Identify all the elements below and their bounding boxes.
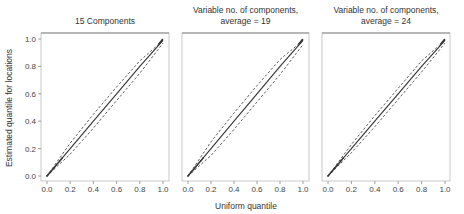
x-axis-title: Uniform quantile bbox=[215, 201, 277, 211]
x-tick-label: 0.0 bbox=[182, 185, 194, 194]
x-tick-label: 0.4 bbox=[369, 185, 381, 194]
y-tick-label: 0.8 bbox=[25, 62, 37, 71]
y-tick-label: 0.2 bbox=[25, 145, 37, 154]
data-point bbox=[58, 161, 60, 163]
data-point bbox=[55, 164, 57, 166]
data-point bbox=[342, 157, 344, 159]
x-tick-label: 0.8 bbox=[416, 185, 428, 194]
x-tick-label: 0.8 bbox=[274, 185, 286, 194]
data-point bbox=[191, 171, 193, 173]
data-point bbox=[336, 164, 338, 166]
data-point bbox=[196, 164, 198, 166]
data-point bbox=[332, 170, 334, 172]
x-tick-label: 0.2 bbox=[205, 185, 217, 194]
data-point bbox=[59, 160, 61, 162]
data-point bbox=[329, 172, 331, 174]
data-point bbox=[334, 167, 336, 169]
data-point bbox=[444, 39, 446, 41]
x-tick-label: 0.6 bbox=[111, 185, 123, 194]
data-point bbox=[202, 157, 204, 159]
data-point bbox=[193, 168, 195, 170]
data-point bbox=[199, 161, 201, 163]
data-point bbox=[340, 160, 342, 162]
data-point bbox=[54, 166, 56, 168]
x-tick-label: 0.4 bbox=[228, 185, 240, 194]
data-point bbox=[51, 170, 53, 172]
x-tick-label: 0.6 bbox=[393, 185, 405, 194]
data-point bbox=[48, 172, 50, 174]
data-point bbox=[46, 175, 48, 177]
plot-frame bbox=[322, 33, 450, 181]
panels: 15 Components0.00.20.40.60.81.00.00.20.4… bbox=[25, 5, 451, 194]
panel-subtitle: average = 19 bbox=[221, 16, 271, 26]
data-point bbox=[47, 174, 49, 176]
data-point bbox=[339, 161, 341, 163]
x-tick-label: 0.0 bbox=[41, 185, 53, 194]
x-tick-label: 0.2 bbox=[346, 185, 358, 194]
data-point bbox=[60, 159, 62, 161]
x-tick-label: 0.8 bbox=[134, 185, 146, 194]
x-tick-label: 0.6 bbox=[251, 185, 263, 194]
data-point bbox=[189, 172, 191, 174]
data-point bbox=[192, 170, 194, 172]
y-tick-label: 1.0 bbox=[25, 35, 37, 44]
x-tick-label: 1.0 bbox=[157, 185, 169, 194]
x-tick-label: 0.4 bbox=[88, 185, 100, 194]
panel-subtitle: average = 24 bbox=[361, 16, 411, 26]
data-point bbox=[333, 168, 335, 170]
panel-1: 15 Components0.00.20.40.60.81.00.00.20.4… bbox=[25, 16, 169, 194]
figure: Estimated quantile for locations Uniform… bbox=[0, 0, 464, 214]
series-median bbox=[47, 40, 163, 176]
data-point bbox=[338, 163, 340, 165]
y-axis-label: Estimated quantile for locations bbox=[4, 49, 14, 167]
data-point bbox=[188, 174, 190, 176]
data-point bbox=[328, 174, 330, 176]
data-point bbox=[162, 39, 164, 41]
data-point bbox=[57, 163, 59, 165]
x-tick-label: 0.2 bbox=[65, 185, 77, 194]
data-point bbox=[187, 175, 189, 177]
panel-2: Variable no. of components,average = 190… bbox=[182, 5, 309, 194]
x-tick-label: 1.0 bbox=[297, 185, 309, 194]
data-point bbox=[195, 166, 197, 168]
data-point bbox=[194, 167, 196, 169]
x-tick-label: 0.0 bbox=[322, 185, 334, 194]
data-point bbox=[52, 168, 54, 170]
data-point bbox=[61, 157, 63, 159]
y-tick-label: 0.0 bbox=[25, 172, 37, 181]
data-point bbox=[200, 160, 202, 162]
series-median bbox=[188, 40, 303, 176]
panel-title: Variable no. of components, bbox=[193, 5, 298, 15]
y-tick-label: 0.6 bbox=[25, 90, 37, 99]
panel-3: Variable no. of components,average = 240… bbox=[322, 5, 451, 194]
x-tick-label: 1.0 bbox=[439, 185, 451, 194]
data-point bbox=[335, 166, 337, 168]
data-point bbox=[302, 39, 304, 41]
data-point bbox=[327, 175, 329, 177]
data-point bbox=[201, 159, 203, 161]
y-tick-label: 0.4 bbox=[25, 117, 37, 126]
data-point bbox=[341, 159, 343, 161]
series-median bbox=[328, 40, 445, 176]
panel-title: Variable no. of components, bbox=[333, 5, 438, 15]
panel-title: 15 Components bbox=[75, 16, 135, 26]
y-axis-title: Estimated quantile for locations bbox=[4, 49, 14, 167]
data-point bbox=[50, 171, 52, 173]
data-point bbox=[197, 163, 199, 165]
data-point bbox=[331, 171, 333, 173]
data-point bbox=[53, 167, 55, 169]
